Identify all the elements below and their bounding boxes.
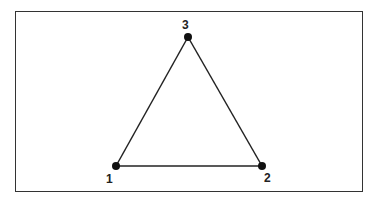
- edge-3-1: [116, 37, 188, 166]
- node-3: [184, 33, 192, 41]
- node-2: [258, 162, 266, 170]
- node-label-3: 3: [182, 18, 189, 32]
- node-label-2: 2: [264, 171, 271, 185]
- edge-2-3: [188, 37, 262, 166]
- triangle-graph: 123: [0, 0, 377, 202]
- node-label-1: 1: [106, 172, 113, 186]
- node-1: [112, 162, 120, 170]
